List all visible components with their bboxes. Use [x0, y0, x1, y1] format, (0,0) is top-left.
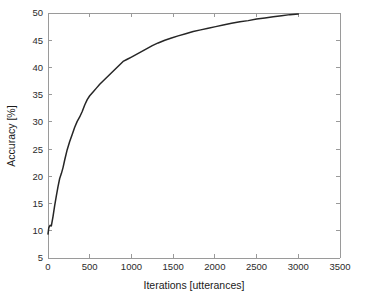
y-tick-label: 40	[32, 62, 43, 73]
x-tick-label: 3000	[288, 261, 309, 272]
y-tick-label: 20	[32, 171, 43, 182]
accuracy-line-chart: 0500100015002000250030003500 51015202530…	[0, 0, 369, 301]
x-tick-label: 3500	[329, 261, 350, 272]
x-tick-label: 2500	[246, 261, 267, 272]
chart-figure: 0500100015002000250030003500 51015202530…	[0, 0, 369, 301]
y-tick-label: 30	[32, 116, 43, 127]
plot-area-background	[48, 13, 340, 258]
y-tick-label: 15	[32, 198, 43, 209]
y-axis-title: Accuracy [%]	[5, 105, 17, 166]
x-tick-label: 1000	[121, 261, 142, 272]
x-tick-label: 500	[82, 261, 98, 272]
x-tick-label: 1500	[163, 261, 184, 272]
y-tick-label: 5	[38, 252, 43, 263]
y-tick-label: 50	[32, 7, 43, 18]
x-tick-label: 0	[45, 261, 50, 272]
y-tick-label: 35	[32, 89, 43, 100]
x-tick-label: 2000	[204, 261, 225, 272]
y-tick-label: 10	[32, 225, 43, 236]
y-tick-label: 25	[32, 144, 43, 155]
y-tick-label: 45	[32, 35, 43, 46]
x-axis-title: Iterations [utterances]	[144, 279, 245, 291]
